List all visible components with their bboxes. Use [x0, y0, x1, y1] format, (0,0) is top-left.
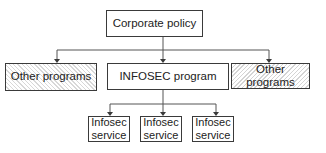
infosec-service-1-line2: service — [92, 129, 127, 142]
other-programs-box-right: Other programs — [231, 63, 310, 89]
corporate-policy-box: Corporate policy — [106, 10, 203, 37]
other-programs-label-right: Other programs — [232, 63, 309, 89]
other-programs-label-left: Other programs — [11, 70, 92, 83]
corporate-policy-label: Corporate policy — [113, 17, 197, 30]
infosec-service-box-3: Infosec service — [192, 116, 234, 142]
infosec-service-2-line1: Infosec — [143, 116, 178, 129]
infosec-service-box-2: Infosec service — [140, 116, 182, 142]
infosec-service-3-line1: Infosec — [195, 116, 230, 129]
infosec-program-label: INFOSEC program — [119, 70, 216, 83]
infosec-service-2-line2: service — [144, 129, 179, 142]
infosec-service-1-line1: Infosec — [91, 116, 126, 129]
infosec-service-box-1: Infosec service — [88, 116, 130, 142]
infosec-program-box: INFOSEC program — [107, 63, 229, 90]
infosec-service-3-line2: service — [196, 129, 231, 142]
other-programs-box-left: Other programs — [5, 63, 97, 91]
